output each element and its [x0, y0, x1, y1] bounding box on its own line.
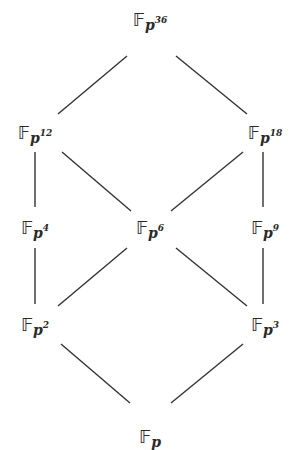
field-node-4: 𝔽p4	[21, 219, 49, 237]
field-base: p	[148, 225, 158, 241]
field-node-3: 𝔽p3	[251, 316, 279, 334]
edge-n18-n6	[171, 152, 243, 211]
field-symbol: 𝔽	[18, 122, 30, 143]
field-symbol: 𝔽	[21, 217, 33, 238]
edge-n36-n12	[58, 56, 127, 114]
field-symbol: 𝔽	[251, 217, 263, 238]
field-base: p	[260, 130, 270, 146]
edge-n6-n3	[176, 248, 247, 306]
field-symbol: 𝔽	[251, 314, 263, 335]
field-node-18: 𝔽p18	[248, 124, 282, 142]
field-node-6: 𝔽p6	[136, 219, 164, 237]
field-node-36: 𝔽p36	[133, 11, 167, 29]
field-exponent: 6	[158, 223, 164, 233]
field-symbol: 𝔽	[248, 122, 260, 143]
field-exponent: 2	[43, 320, 49, 330]
field-exponent: 12	[40, 128, 53, 138]
field-symbol: 𝔽	[21, 314, 33, 335]
field-exponent: 18	[270, 128, 283, 138]
edge-n2-n1	[61, 344, 130, 403]
edge-n12-n6	[62, 152, 131, 211]
field-exponent: 4	[43, 223, 49, 233]
field-base: p	[33, 225, 43, 241]
field-base: p	[263, 322, 273, 338]
field-symbol: 𝔽	[133, 9, 145, 30]
field-symbol: 𝔽	[139, 426, 151, 447]
edge-n6-n2	[58, 248, 127, 306]
field-base: p	[30, 130, 40, 146]
field-base: p	[145, 17, 155, 33]
field-node-12: 𝔽p12	[18, 124, 52, 142]
edge-n36-n18	[176, 56, 247, 114]
field-exponent: 36	[155, 15, 168, 25]
field-base: p	[33, 322, 43, 338]
field-symbol: 𝔽	[136, 217, 148, 238]
field-node-2: 𝔽p2	[21, 316, 49, 334]
field-base: p	[263, 225, 273, 241]
field-exponent: 3	[273, 320, 279, 330]
field-node-9: 𝔽p9	[251, 219, 279, 237]
edge-n3-n1	[171, 344, 243, 403]
field-exponent: 9	[273, 223, 279, 233]
field-node-1: 𝔽p	[139, 428, 161, 446]
field-base: p	[151, 434, 161, 450]
